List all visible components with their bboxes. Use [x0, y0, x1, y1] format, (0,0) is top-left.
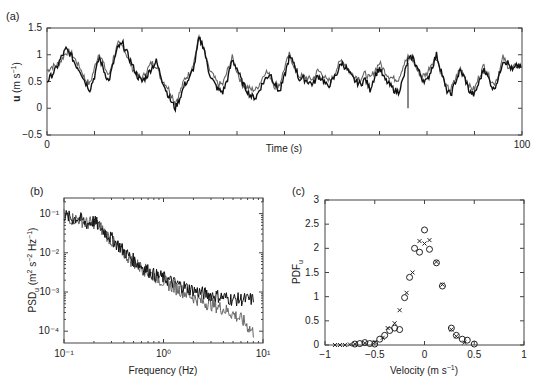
panel-label-b: (b): [30, 185, 43, 197]
circle-marker: [453, 332, 459, 338]
panel-c-xlabel: Velocity (m s−1): [390, 364, 458, 376]
cross-marker: [405, 291, 409, 295]
xtick-label: 0: [44, 139, 50, 150]
timeseries-line: [47, 38, 521, 111]
psd-line: [64, 209, 253, 338]
cross-marker: [418, 239, 422, 243]
panel-b-ytick-labels: 10⁻⁴10⁻³10⁻²10⁻¹: [39, 208, 60, 337]
panel-c-ticks: [325, 200, 524, 345]
cross-marker: [454, 334, 458, 338]
ytick-label: 3: [313, 194, 319, 205]
cross-marker: [363, 341, 367, 345]
panel-b-psd: 10⁻⁴10⁻³10⁻²10⁻¹ 10⁻¹10⁰10¹ Frequency (H…: [26, 198, 271, 376]
circle-marker: [402, 295, 408, 301]
panel-c-axes-box: [325, 200, 524, 345]
ytick-label: 10⁻¹: [40, 208, 60, 219]
ytick-label: 0.5: [305, 315, 319, 326]
xtick-label: 0: [422, 349, 428, 360]
panel-a-series: [47, 36, 521, 111]
xtick-label: 10¹: [256, 348, 271, 359]
circle-marker: [433, 260, 439, 266]
panel-b-series: [64, 209, 253, 338]
panel-c-ylabel: PDFu: [291, 260, 304, 284]
cross-marker: [427, 238, 431, 242]
ytick-label: 10⁻³: [40, 286, 60, 297]
ytick-label: 1: [313, 291, 319, 302]
panel-b-xlabel: Frequency (Hz): [129, 365, 198, 376]
ytick-label: 0.5: [28, 76, 42, 87]
cross-marker: [411, 271, 415, 275]
ytick-label: 2: [313, 242, 319, 253]
panel-label-c: (c): [292, 185, 305, 197]
panel-b-ylabel: PSDu (m2 s−2 Hz−1): [26, 228, 40, 313]
circle-marker: [417, 249, 423, 255]
ytick-label: 10⁻²: [40, 247, 60, 258]
xtick-label: 1: [521, 349, 527, 360]
xtick-label: 0.5: [467, 349, 481, 360]
figure: (a) (b) (c) −0.500.511.5 0100 Time (s) u…: [0, 0, 543, 388]
xtick-label: 10⁰: [156, 348, 171, 359]
panel-c-xtick-labels: −1−0.500.51: [319, 349, 527, 360]
xtick-label: −1: [319, 349, 331, 360]
xtick-label: 10⁻¹: [54, 348, 74, 359]
ytick-label: 10⁻⁴: [39, 325, 59, 336]
cross-marker: [423, 242, 427, 246]
circle-marker: [426, 246, 432, 252]
panel-a-timeseries: −0.500.511.5 0100 Time (s) u (m s−1): [10, 22, 531, 154]
panel-label-a: (a): [6, 10, 19, 22]
xtick-label: −0.5: [365, 349, 385, 360]
xtick-label: 100: [514, 139, 531, 150]
panel-a-ytick-labels: −0.500.511.5: [22, 22, 42, 140]
panel-c-ytick-labels: 00.511.522.53: [305, 194, 319, 350]
ytick-label: 1: [36, 49, 42, 60]
cross-marker: [386, 326, 390, 330]
panel-a-ylabel: u (m s−1): [10, 62, 22, 102]
panel-a-xlabel: Time (s): [266, 143, 302, 154]
ytick-label: 1.5: [305, 267, 319, 278]
ytick-label: −0.5: [22, 129, 42, 140]
circle-marker: [407, 274, 413, 280]
panel-c-pdf: 00.511.522.53 −1−0.500.51 Velocity (m s−…: [291, 194, 527, 376]
psd-line: [64, 210, 253, 306]
ytick-label: 0: [36, 102, 42, 113]
ytick-label: 2.5: [305, 218, 319, 229]
panel-c-scatter-points: [333, 227, 477, 347]
panel-b-xtick-labels: 10⁻¹10⁰10¹: [54, 348, 271, 359]
cross-marker: [398, 308, 402, 312]
ytick-label: 1.5: [28, 22, 42, 33]
cross-marker: [434, 260, 438, 264]
circle-marker: [422, 227, 428, 233]
